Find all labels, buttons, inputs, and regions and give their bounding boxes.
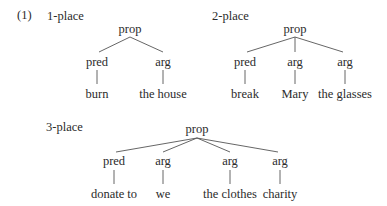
tree-edges xyxy=(0,0,387,206)
root-node: prop xyxy=(284,22,307,36)
tree-label: 1-place xyxy=(47,9,84,23)
leaf: the house xyxy=(139,87,187,101)
tree-label: 3-place xyxy=(46,120,83,134)
tree-label: 2-place xyxy=(212,9,249,23)
arg-node: arg xyxy=(155,55,171,69)
root-node: prop xyxy=(186,122,209,136)
leaf: we xyxy=(156,187,171,201)
arg-node: arg xyxy=(155,154,171,168)
leaf: burn xyxy=(86,87,109,101)
leaf: the clothes xyxy=(203,187,257,201)
arg-node: arg xyxy=(272,154,288,168)
root-node: prop xyxy=(119,22,142,36)
arg-node: arg xyxy=(222,154,238,168)
example-number: (1) xyxy=(17,8,32,22)
leaf: break xyxy=(231,87,259,101)
arg-node: arg xyxy=(287,55,303,69)
pred-node: pred xyxy=(86,55,108,69)
arg-node: arg xyxy=(337,55,353,69)
leaf: the glasses xyxy=(318,87,372,101)
pred-node: pred xyxy=(103,154,125,168)
leaf: donate to xyxy=(91,187,137,201)
leaf: charity xyxy=(263,187,298,201)
leaf: Mary xyxy=(281,87,308,101)
pred-node: pred xyxy=(234,55,256,69)
